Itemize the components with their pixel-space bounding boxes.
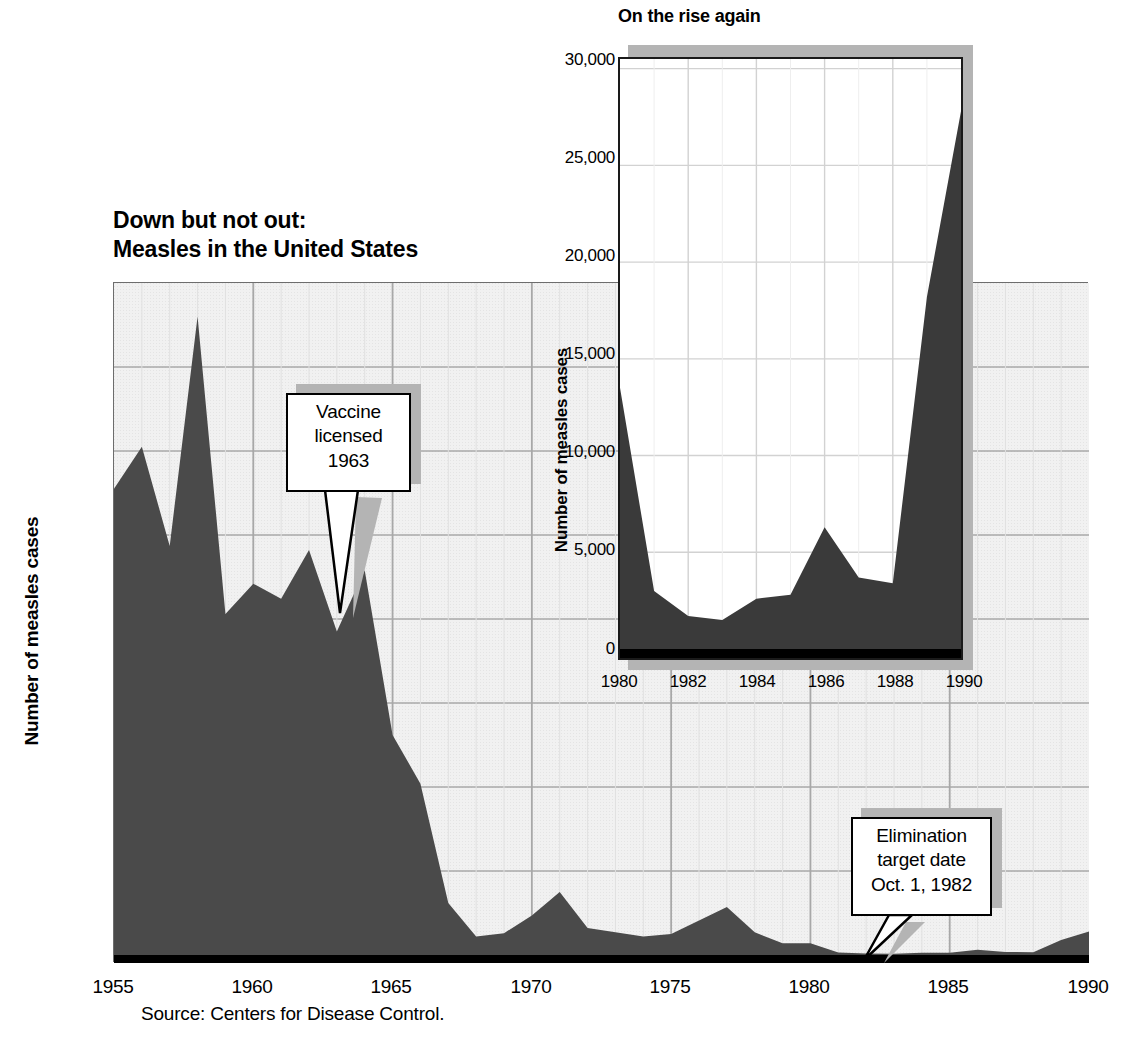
inset-ytick-5000: 5,000 — [435, 540, 615, 560]
main-xtick-1965: 1965 — [331, 976, 451, 998]
inset-chart-title: On the rise again — [618, 6, 761, 27]
main-xtick-1970: 1970 — [471, 976, 591, 998]
main-xtick-1985: 1985 — [888, 976, 1008, 998]
main-baseline — [114, 955, 1089, 963]
main-xtick-1955: 1955 — [53, 976, 173, 998]
chart-canvas: Down but not out: Measles in the United … — [0, 0, 1123, 1039]
main-xtick-1990: 1990 — [1028, 976, 1123, 998]
inset-baseline — [620, 649, 961, 658]
main-y-axis-label: Number of measles cases — [21, 511, 43, 751]
source-note: Source: Centers for Disease Control. — [141, 1003, 444, 1025]
inset-ytick-30000: 30,000 — [435, 50, 615, 70]
main-xtick-1975: 1975 — [610, 976, 730, 998]
inset-ytick-15000: 15,000 — [435, 344, 615, 364]
main-xtick-1980: 1980 — [749, 976, 869, 998]
vaccine-callout: Vaccine licensed 1963 — [286, 393, 411, 492]
inset-ytick-10000: 10,000 — [435, 442, 615, 462]
inset-ytick-20000: 20,000 — [435, 246, 615, 266]
main-chart-title: Down but not out: Measles in the United … — [113, 206, 418, 264]
inset-plot-area — [618, 57, 963, 660]
main-xtick-1960: 1960 — [192, 976, 312, 998]
inset-xtick-1990: 1990 — [919, 672, 1009, 692]
inset-area-chart — [620, 59, 961, 658]
elimination-callout: Elimination target date Oct. 1, 1982 — [851, 817, 992, 916]
inset-ytick-0: 0 — [435, 639, 615, 659]
inset-ytick-25000: 25,000 — [435, 148, 615, 168]
